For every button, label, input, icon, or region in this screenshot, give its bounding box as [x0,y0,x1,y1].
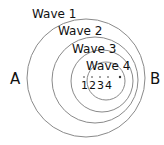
source-3-label: 3 [97,80,104,91]
wave-1-label: Wave 1 [32,8,76,20]
source-4-label: 4 [105,80,112,91]
point-b-label: B [150,72,160,87]
source-1-label: 1 [81,80,88,91]
source-2-label: 2 [89,80,96,91]
wave-3-label: Wave 3 [72,43,116,55]
wave-2-label: Wave 2 [58,25,102,37]
source-dots [83,76,121,78]
wave-4-label: Wave 4 [86,60,130,72]
point-a-label: A [10,72,20,87]
wave-circles [0,0,164,145]
